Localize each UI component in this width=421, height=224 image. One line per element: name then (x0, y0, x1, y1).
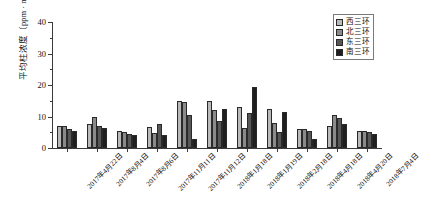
bar-group (267, 109, 287, 148)
bar-group (357, 131, 377, 148)
legend-label: 南三环 (346, 48, 370, 56)
bar-group (237, 87, 257, 148)
legend-swatch-icon (336, 29, 343, 36)
x-tick (97, 148, 98, 152)
x-tick (277, 148, 278, 152)
bar-group (117, 131, 137, 148)
x-tick (67, 148, 68, 152)
legend-item: 西三环 (336, 17, 370, 27)
bar (252, 87, 257, 148)
y-tick-minor (50, 101, 53, 102)
bar (312, 139, 317, 148)
bar (102, 128, 107, 148)
legend: 西三环北三环东三环南三环 (333, 14, 374, 60)
bar (342, 124, 347, 148)
bar-group (207, 101, 227, 148)
bar-group (57, 126, 77, 148)
y-tick-minor (50, 132, 53, 133)
x-tick (187, 148, 188, 152)
bar-group (297, 129, 317, 148)
y-tick-label: 40 (38, 18, 47, 27)
legend-label: 东三环 (346, 38, 370, 46)
y-tick-major (48, 54, 52, 55)
legend-item: 南三环 (336, 47, 370, 57)
x-tick (337, 148, 338, 152)
legend-label: 西三环 (346, 18, 370, 26)
legend-item: 东三环 (336, 37, 370, 47)
legend-swatch-icon (336, 49, 343, 56)
x-tick (367, 148, 368, 152)
x-tick (217, 148, 218, 152)
y-tick-minor (50, 38, 53, 39)
bar-group (87, 117, 107, 148)
y-tick-major (48, 22, 52, 23)
legend-swatch-icon (336, 39, 343, 46)
y-tick-major (48, 85, 52, 86)
x-tick-label: 2017年8月6日 (145, 153, 180, 188)
y-tick-major (48, 148, 52, 149)
bar-group (177, 101, 197, 148)
y-tick-label: 10 (38, 112, 47, 121)
bar (282, 112, 287, 148)
legend-item: 北三环 (336, 27, 370, 37)
bar (72, 131, 77, 148)
legend-label: 北三环 (346, 28, 370, 36)
x-tick (127, 148, 128, 152)
bar (132, 135, 137, 148)
bar-group (147, 124, 167, 148)
legend-swatch-icon (336, 19, 343, 26)
y-axis-title: 平均柱浓度（ppm · m） (16, 0, 28, 104)
bar (372, 134, 377, 148)
bar (222, 109, 227, 148)
y-tick-label: 30 (38, 49, 47, 58)
y-tick-minor (50, 69, 53, 70)
x-tick (307, 148, 308, 152)
y-tick-label: 0 (42, 144, 46, 153)
y-tick-label: 20 (38, 81, 47, 90)
x-tick (157, 148, 158, 152)
bar (162, 135, 167, 148)
x-tick (247, 148, 248, 152)
bar-group (327, 115, 347, 148)
y-axis-line (52, 22, 53, 148)
y-tick-major (48, 117, 52, 118)
bar (192, 139, 197, 148)
